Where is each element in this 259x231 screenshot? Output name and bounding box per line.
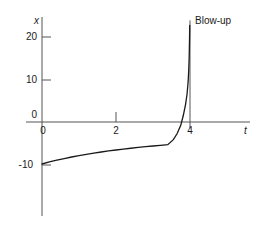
x-tick-label-4: 4 (180, 126, 200, 136)
x-axis-label: t (244, 126, 247, 136)
y-tick-label-10: 10 (9, 75, 37, 85)
y-tick-label-20: 20 (9, 32, 37, 42)
y-tick-label-neg10: -10 (5, 160, 33, 170)
y-tick-label-0: 0 (9, 110, 37, 120)
plot-canvas (0, 0, 259, 231)
blow-up-solution-figure: x t 20 10 0 -10 0 2 4 Blow-up (0, 0, 259, 231)
y-axis-label: x (34, 16, 39, 26)
x-tick-label-0: 0 (33, 126, 53, 136)
solution-curve (42, 25, 190, 164)
blow-up-annotation: Blow-up (195, 16, 231, 26)
x-tick-label-2: 2 (106, 126, 126, 136)
